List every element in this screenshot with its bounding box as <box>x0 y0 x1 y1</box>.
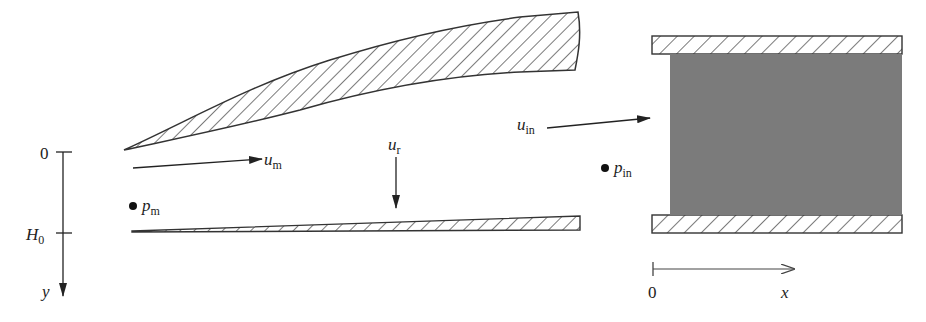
x-origin-label: 0 <box>648 283 657 302</box>
y-axis <box>56 152 72 296</box>
channel-bottom-wall <box>652 215 902 233</box>
p-m-label: pm <box>141 196 161 218</box>
y-tick-zero-label: 0 <box>40 144 49 163</box>
upper-curved-wall <box>124 12 580 150</box>
x-axis-label: x <box>780 283 789 302</box>
p-in-label: pin <box>613 158 632 180</box>
u-in-label: uin <box>517 115 535 137</box>
u-r-label: ur <box>388 135 401 157</box>
u-m-label: um <box>264 150 283 172</box>
diagram: 0 H0 y um pm ur uin pin 0 x <box>0 0 926 322</box>
channel-top-wall <box>652 36 902 54</box>
shaded-region <box>670 54 902 215</box>
y-axis-label: y <box>40 282 50 301</box>
p-in-point <box>601 164 609 172</box>
y-tick-h0-label: H0 <box>25 225 44 247</box>
u-in-arrow <box>547 118 650 128</box>
x-axis <box>653 262 794 276</box>
lower-tapered-wall <box>132 216 580 232</box>
u-m-arrow <box>133 159 262 168</box>
p-m-point <box>129 202 137 210</box>
